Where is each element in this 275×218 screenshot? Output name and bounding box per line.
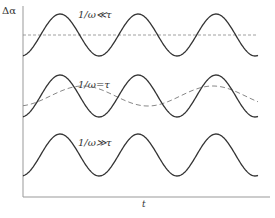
bottom-curve-label: 1/ω≫τ (78, 137, 111, 148)
diagram-canvas (0, 0, 275, 218)
middle-dashed-curve (23, 86, 258, 106)
top-curve-label: 1/ω≪τ (78, 9, 111, 20)
x-axis-label: t (142, 199, 146, 209)
bottom-solid-curve (23, 134, 258, 176)
middle-solid-curve (23, 75, 258, 117)
middle-curve-label: 1/ω=τ (78, 79, 110, 90)
y-axis-label: Δα (2, 5, 16, 16)
